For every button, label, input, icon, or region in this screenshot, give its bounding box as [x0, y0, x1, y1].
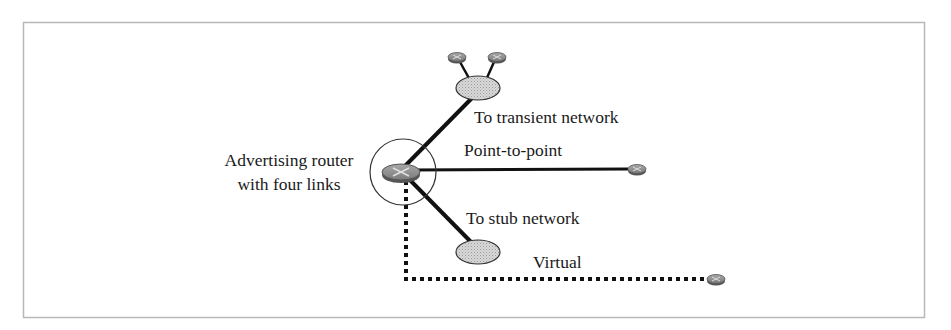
router-label-line2: with four links — [237, 174, 340, 194]
links — [405, 62, 706, 279]
stub-link — [408, 178, 472, 243]
transient-network-node — [456, 76, 500, 100]
virtual-label: Virtual — [533, 252, 582, 272]
transient-router-1-icon — [448, 53, 466, 64]
router-label-line1: Advertising router — [225, 150, 354, 170]
point-to-point-label: Point-to-point — [464, 140, 562, 160]
stub-label: To stub network — [466, 208, 580, 228]
transient-link — [405, 98, 472, 166]
p2p-router-icon — [628, 165, 646, 176]
ospf-link-types-diagram: Advertising router with four links To tr… — [0, 0, 951, 330]
transient-label: To transient network — [474, 107, 619, 127]
stub-network-node — [456, 240, 500, 264]
transient-router-2-icon — [488, 53, 506, 64]
point-to-point-link — [410, 169, 628, 170]
virtual-router-icon — [707, 275, 725, 286]
advertising-router-icon — [382, 164, 420, 183]
